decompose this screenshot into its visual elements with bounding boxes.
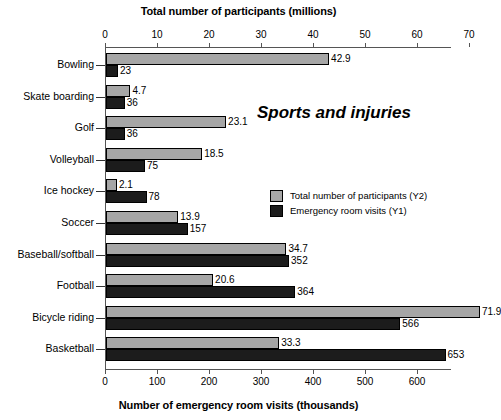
category-axis-tick: [96, 255, 105, 256]
bottom-axis-tick: [157, 370, 158, 374]
category-axis-tick: [96, 160, 105, 161]
top-axis-tick-label: 10: [137, 29, 177, 40]
bar-participants: [106, 243, 286, 255]
bar-value-label-participants: 33.3: [281, 337, 300, 349]
top-axis-tick-label: 30: [241, 29, 281, 40]
category-label: Volleyball: [0, 154, 94, 165]
top-axis-tick-label: 70: [449, 29, 489, 40]
category-label: Football: [0, 280, 94, 291]
bar-emergency-room-visits: [106, 318, 400, 330]
top-axis-tick-label: 20: [189, 29, 229, 40]
category-axis-tick: [96, 318, 105, 319]
bar-value-label-er-visits: 653: [448, 349, 465, 361]
category-axis-tick: [96, 223, 105, 224]
bottom-axis-tick: [365, 370, 366, 374]
bar-value-label-participants: 23.1: [228, 116, 247, 128]
bar-value-label-er-visits: 36: [127, 128, 138, 140]
category-axis-tick: [96, 65, 105, 66]
bottom-axis-tick: [313, 370, 314, 374]
bar-value-label-participants: 13.9: [180, 211, 199, 223]
category-axis-tick: [96, 128, 105, 129]
legend-label: Emergency room visits (Y1): [290, 205, 407, 216]
bar-participants: [106, 85, 130, 97]
bar-participants: [106, 53, 329, 65]
bottom-axis-tick: [209, 370, 210, 374]
bar-value-label-er-visits: 352: [291, 255, 308, 267]
bar-value-label-er-visits: 75: [147, 160, 158, 172]
bar-value-label-participants: 34.7: [288, 243, 307, 255]
category-label: Basketball: [0, 343, 94, 354]
bar-emergency-room-visits: [106, 128, 125, 140]
bar-value-label-participants: 42.9: [331, 53, 350, 65]
bottom-axis-tick-label: 400: [293, 376, 333, 387]
category-label: Golf: [0, 122, 94, 133]
bottom-axis-tick-label: 300: [241, 376, 281, 387]
bottom-axis-tick-label: 0: [85, 376, 125, 387]
bottom-axis-tick-label: 500: [345, 376, 385, 387]
bar-participants: [106, 337, 279, 349]
bar-participants: [106, 148, 202, 160]
category-axis-tick: [96, 97, 105, 98]
bar-value-label-participants: 20.6: [215, 274, 234, 286]
top-axis-tick-label: 50: [345, 29, 385, 40]
category-label: Skate boarding: [0, 91, 94, 102]
bottom-axis-tick: [105, 370, 106, 374]
bar-emergency-room-visits: [106, 349, 446, 361]
bar-value-label-er-visits: 23: [120, 65, 131, 77]
category-axis-tick: [96, 349, 105, 350]
bar-participants: [106, 274, 213, 286]
category-label: Ice hockey: [0, 185, 94, 196]
bar-emergency-room-visits: [106, 191, 147, 203]
top-axis-title: Total number of participants (millions): [0, 5, 477, 17]
bar-value-label-er-visits: 566: [402, 318, 419, 330]
bar-emergency-room-visits: [106, 223, 188, 235]
bar-emergency-room-visits: [106, 255, 289, 267]
legend-item: Emergency room visits (Y1): [270, 203, 427, 218]
top-axis-tick-label: 40: [293, 29, 333, 40]
legend-swatch-participants-icon: [270, 190, 283, 202]
bar-value-label-er-visits: 78: [149, 191, 160, 203]
bar-value-label-er-visits: 36: [127, 97, 138, 109]
category-label: Baseball/softball: [0, 249, 94, 260]
chart-annotation-title: Sports and injuries: [257, 103, 411, 123]
top-axis-tick-label: 60: [397, 29, 437, 40]
bar-participants: [106, 179, 117, 191]
category-axis-tick: [96, 191, 105, 192]
bottom-axis-tick: [261, 370, 262, 374]
bar-value-label-er-visits: 364: [297, 286, 314, 298]
bar-value-label-participants: 2.1: [119, 179, 133, 191]
bar-value-label-er-visits: 157: [190, 223, 207, 235]
category-label: Soccer: [0, 217, 94, 228]
bottom-axis-tick-label: 100: [137, 376, 177, 387]
legend-label: Total number of participants (Y2): [290, 190, 427, 201]
bar-value-label-participants: 18.5: [204, 148, 223, 160]
bottom-axis-tick-label: 200: [189, 376, 229, 387]
bar-emergency-room-visits: [106, 65, 118, 77]
bottom-axis-title: Number of emergency room visits (thousan…: [0, 399, 477, 411]
category-label: Bicycle riding: [0, 312, 94, 323]
category-label: Bowling: [0, 59, 94, 70]
bar-emergency-room-visits: [106, 286, 295, 298]
top-axis-tick: [469, 43, 470, 47]
bar-participants: [106, 116, 226, 128]
category-axis-tick: [96, 286, 105, 287]
legend-item: Total number of participants (Y2): [270, 188, 427, 203]
bottom-axis-tick-label: 600: [397, 376, 437, 387]
bar-participants: [106, 306, 480, 318]
bar-value-label-participants: 4.7: [132, 85, 146, 97]
bar-participants: [106, 211, 178, 223]
bottom-axis-tick: [417, 370, 418, 374]
bar-emergency-room-visits: [106, 97, 125, 109]
legend-swatch-er-visits-icon: [270, 205, 283, 217]
top-axis-tick-label: 0: [85, 29, 125, 40]
top-axis-line: [105, 47, 451, 48]
bar-value-label-participants: 71.9: [482, 306, 501, 318]
chart-legend: Total number of participants (Y2)Emergen…: [270, 188, 427, 218]
bar-emergency-room-visits: [106, 160, 145, 172]
